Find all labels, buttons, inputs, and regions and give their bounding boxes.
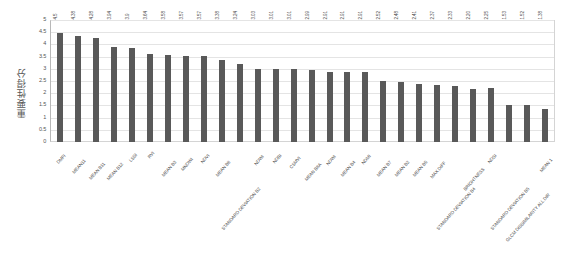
- x-label-slot: NDSI: [482, 144, 500, 259]
- bar-value-label: 1.53: [503, 11, 508, 20]
- bar-slot: 4.28: [87, 21, 105, 142]
- x-tick-label: MNDWI: [180, 158, 194, 173]
- bar[interactable]: 4.5: [57, 33, 63, 142]
- x-label-slot: MEAN B2: [392, 144, 410, 259]
- bar[interactable]: 3.03: [255, 69, 261, 142]
- bar-value-label: 3.24: [234, 11, 239, 20]
- bar-slot: 1.38: [536, 21, 554, 142]
- x-label-slot: STANDARD DEVIATION B2: [231, 144, 249, 259]
- x-label-slot: MEAN B3: [159, 144, 177, 259]
- x-tick-label: MEAN 1: [540, 158, 554, 173]
- bar-value-label: 3.9: [126, 14, 131, 20]
- bar[interactable]: 2.25: [488, 88, 494, 142]
- bar-value-label: 3.03: [252, 11, 257, 20]
- y-tick-label: 3: [6, 66, 50, 72]
- bar-slot: 2.33: [446, 21, 464, 142]
- x-tick-label: MEAN B5: [413, 160, 429, 178]
- bar[interactable]: 4.38: [75, 36, 81, 142]
- x-tick-label: MEAN B11: [89, 162, 107, 181]
- bar[interactable]: 3.24: [237, 64, 243, 142]
- x-label-slot: MEAN B8A: [303, 144, 321, 259]
- bar-slot: 3.01: [285, 21, 303, 142]
- bar[interactable]: 2.48: [398, 82, 404, 142]
- bar-slot: 4.38: [69, 21, 87, 142]
- bar-value-label: 2.52: [377, 11, 382, 20]
- x-tick-label: MEAN11: [72, 159, 87, 175]
- bar-value-label: 2.91: [323, 11, 328, 20]
- x-tick-label: NDVI: [200, 154, 210, 165]
- bar-slot: 2.91: [356, 21, 374, 142]
- bar-value-label: 2.91: [341, 11, 346, 20]
- bar[interactable]: 3.58: [165, 55, 171, 142]
- x-tick-label: MEAN B3: [161, 160, 177, 178]
- x-label-slot: NDVI: [195, 144, 213, 259]
- bar-slot: 3.01: [267, 21, 285, 142]
- bar[interactable]: 3.64: [147, 54, 153, 142]
- bar-slot: 2.99: [303, 21, 321, 142]
- y-tick-label: 4.5: [6, 29, 50, 35]
- bar-slot: 2.91: [339, 21, 357, 142]
- bar[interactable]: 3.9: [129, 48, 135, 142]
- y-axis-tick-labels: 54.543.532.521.510.50: [0, 20, 50, 142]
- bar-value-label: 4.5: [54, 14, 59, 20]
- bar[interactable]: 3.01: [273, 69, 279, 142]
- bar[interactable]: 2.91: [362, 72, 368, 142]
- x-label-slot: NDMI: [356, 144, 374, 259]
- bar-value-label: 1.52: [521, 11, 526, 20]
- bar[interactable]: 2.41: [416, 84, 422, 142]
- x-label-slot: NDWI: [321, 144, 339, 259]
- x-label-slot: LSSI: [123, 144, 141, 259]
- bar-slot: 3.9: [123, 21, 141, 142]
- x-tick-label: NDBI: [272, 154, 282, 165]
- x-tick-label: NDSI: [488, 154, 498, 165]
- x-label-slot: MEAN11: [69, 144, 87, 259]
- x-tick-label: NDMI: [362, 154, 373, 166]
- bar-slot: 3.64: [141, 21, 159, 142]
- x-label-slot: MEAN 1: [536, 144, 554, 259]
- x-tick-label: MEAN B8: [215, 160, 231, 178]
- bar[interactable]: 3.57: [201, 56, 207, 142]
- y-tick-label: 2: [6, 90, 50, 96]
- bar-slot: 2.48: [392, 21, 410, 142]
- bar-slot: 3.24: [231, 21, 249, 142]
- x-label-slot: MEAN B12: [105, 144, 123, 259]
- bars-container: 4.54.384.283.943.93.643.583.573.573.383.…: [51, 21, 554, 142]
- bar-slot: 3.38: [213, 21, 231, 142]
- bar[interactable]: 2.91: [344, 72, 350, 142]
- bar-value-label: 4.28: [90, 11, 95, 20]
- bar[interactable]: 1.38: [542, 109, 548, 142]
- bar-value-label: 4.38: [72, 11, 77, 20]
- bar[interactable]: 2.33: [452, 86, 458, 142]
- bar[interactable]: 1.52: [524, 105, 530, 142]
- bar[interactable]: 3.38: [219, 60, 225, 142]
- bar[interactable]: 2.52: [380, 81, 386, 142]
- bar-value-label: 3.38: [216, 11, 221, 20]
- bar-value-label: 3.57: [198, 11, 203, 20]
- bar[interactable]: 3.01: [291, 69, 297, 142]
- bar-value-label: 2.33: [449, 11, 454, 20]
- bar-slot: 1.53: [500, 21, 518, 142]
- bar-slot: 2.20: [464, 21, 482, 142]
- bar-slot: 1.52: [518, 21, 536, 142]
- bar[interactable]: 2.20: [470, 89, 476, 142]
- x-label-slot: MEAN B8: [213, 144, 231, 259]
- bar[interactable]: 1.53: [506, 105, 512, 142]
- x-tick-label: MAX DIFF: [430, 161, 447, 179]
- bar[interactable]: 3.94: [111, 47, 117, 142]
- bar[interactable]: 4.28: [93, 38, 99, 142]
- x-label-slot: STANDARD DEVIATION B4: [446, 144, 464, 259]
- bar[interactable]: 2.91: [327, 72, 333, 142]
- bar-slot: 2.37: [428, 21, 446, 142]
- y-tick-label: 4: [6, 42, 50, 48]
- x-tick-label: LSSI: [129, 153, 139, 163]
- bar[interactable]: 2.99: [309, 70, 315, 142]
- x-label-slot: NDBI: [267, 144, 285, 259]
- bar-value-label: 2.91: [359, 11, 364, 20]
- bar-slot: 4.5: [51, 21, 69, 142]
- bar[interactable]: 2.37: [434, 85, 440, 142]
- bar-value-label: 2.37: [431, 11, 436, 20]
- bar-slot: 3.58: [159, 21, 177, 142]
- bar[interactable]: 3.57: [183, 56, 189, 142]
- bar-value-label: 3.57: [180, 11, 185, 20]
- bar-slot: 2.52: [374, 21, 392, 142]
